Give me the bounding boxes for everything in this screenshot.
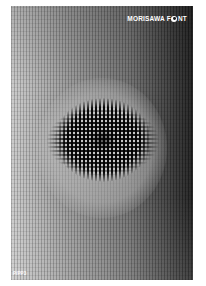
sphere-core — [89, 128, 117, 152]
poster: MORISAWA FNT P/PP3 — [11, 6, 193, 280]
brand-text-part1: MORISAWA F — [127, 15, 171, 22]
brand-logo: MORISAWA FNT — [127, 15, 187, 22]
poster-code: P/PP3 — [13, 271, 26, 276]
brand-text-part2: NT — [178, 15, 187, 22]
logo-o-icon — [171, 16, 177, 22]
